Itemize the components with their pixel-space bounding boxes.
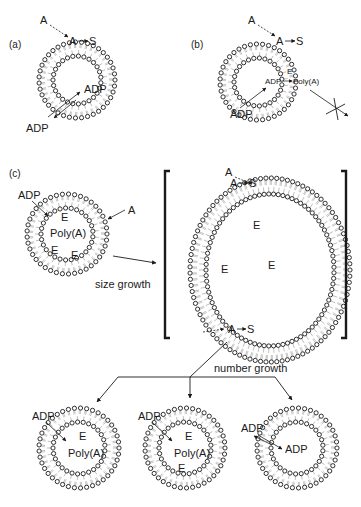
precursor-uptake-arrow [50,25,68,37]
conversion-top-to: S [249,177,256,189]
adp-outside-label: ADP [26,122,49,134]
size-growth-label: size growth [95,278,151,290]
precursor-label-c: A [128,204,136,216]
daughter-2-enzyme-2: E [178,462,185,474]
daughter-arrow-3 [275,377,292,400]
conversion-to-label: S [89,35,96,47]
daughter-3-adp-inner: ADP [285,443,308,455]
vesicle-growth-diagram: (a) A A S ADP ADP (b) A A S E ADP Poly(A… [0,0,361,507]
vesicle-a [37,40,117,120]
daughter-arrow-1 [97,377,118,402]
enzyme-label-c-2: E [51,244,58,256]
enzyme-label-c-3: E [71,249,78,261]
daughter-2-polymer: Poly(A) [174,447,210,459]
daughter-2-adp: ADP [138,410,161,422]
daughter-1-adp: ADP [32,410,55,422]
number-growth-label: number growth [214,362,287,374]
conversion-to-label-b: S [296,35,303,47]
daughter-3-adp: ADP [241,422,264,434]
daughter-1-enzyme: E [79,430,86,442]
panel-a-label: (a) [9,39,21,50]
panel-c-label: (c) [9,168,21,179]
enzyme-large-2: E [221,263,228,275]
reaction-from-label: ADP [265,77,281,86]
polymer-label-c: Poly(A) [50,227,86,239]
enzyme-large-3: E [268,259,275,271]
daughter-1-polymer: Poly(A) [68,447,104,459]
adp-outside-label-b: ADP [230,108,253,120]
panel-c: (c) ADP A E Poly(A) E E size growth A A … [9,166,346,474]
adp-inside-label: ADP [84,83,107,95]
size-growth-arrow [113,256,156,263]
panel-b-label: (b) [191,39,203,50]
membrane-layer [25,40,352,490]
enzyme-label-c-1: E [61,211,68,223]
precursor-arrow-c [108,210,125,219]
daughter-2-enzyme-1: E [185,430,192,442]
conversion-from-label-b: A [276,35,284,47]
precursor-uptake-arrow-b [258,25,275,36]
reaction-to-label: Poly(A) [293,77,320,86]
conversion-bottom-from: A [228,323,236,335]
conversion-top-from: A [230,177,238,189]
precursor-a-label: A [40,14,48,26]
conversion-bottom-to: S [247,323,254,335]
adp-label-c: ADP [18,189,41,201]
enzyme-large-1: E [253,219,260,231]
precursor-b-label: A [248,14,256,26]
enzyme-label-b: E [287,67,292,76]
diagram-canvas: (a) A A S ADP ADP (b) A A S E ADP Poly(A… [0,0,361,507]
left-bracket [165,171,170,338]
precursor-arrow-bottom [203,329,224,332]
conversion-from-label: A [69,35,77,47]
